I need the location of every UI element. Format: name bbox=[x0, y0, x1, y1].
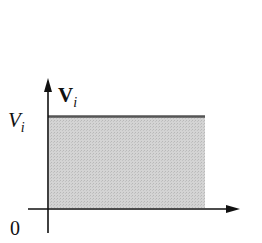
level-label: Vi bbox=[8, 108, 25, 135]
shaded-region bbox=[49, 116, 205, 208]
origin-label: 0 bbox=[10, 217, 20, 239]
y-axis-arrow-icon bbox=[44, 78, 52, 92]
y-axis-label: Vi bbox=[58, 83, 77, 110]
x-axis-arrow-icon bbox=[226, 205, 240, 213]
diagram-canvas: Vi Vi 0 bbox=[0, 0, 262, 243]
